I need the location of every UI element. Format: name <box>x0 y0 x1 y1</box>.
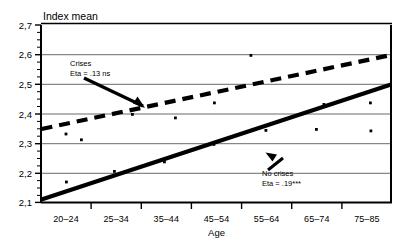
x-tick-label-55-64: 55–64 <box>254 214 280 224</box>
data-point-nocrises-5 <box>265 129 268 132</box>
data-point-nocrises-1 <box>65 181 68 184</box>
data-point-crises-1 <box>65 133 68 136</box>
y-tick-label-2-6: 2,6 <box>19 49 32 60</box>
data-point-crises-8 <box>369 102 372 105</box>
y-tick-label-2-5: 2,5 <box>19 79 32 90</box>
data-point-crises-2 <box>80 138 83 141</box>
x-axis-title: Age <box>208 227 225 238</box>
x-tick-label-75-85: 75–85 <box>354 214 380 224</box>
data-point-crises-4 <box>174 117 177 120</box>
y-axis-title: Index mean <box>43 10 98 22</box>
y-tick-label-2-3: 2,3 <box>19 138 32 149</box>
chart-figure: Index mean <box>0 0 413 250</box>
x-tick-label-35-44: 35–44 <box>154 214 180 224</box>
x-tick-label-25-34: 25–34 <box>103 214 129 224</box>
annotation-crises-eta: Eta = .13 ns <box>70 69 110 78</box>
annotation-crises-title: Crises <box>70 59 92 68</box>
y-tick-label-2-4: 2,4 <box>19 109 32 120</box>
x-tick-label-20-24: 20–24 <box>53 214 79 224</box>
x-tick-label-65-74: 65–74 <box>304 214 330 224</box>
data-point-nocrises-7 <box>370 130 373 133</box>
x-tick-label-45-54: 45–54 <box>204 214 230 224</box>
data-point-nocrises-6 <box>315 128 318 131</box>
data-point-crises-3 <box>131 113 134 116</box>
annotation-nocrises-title: No crises <box>262 169 294 178</box>
data-point-crises-5 <box>213 102 216 105</box>
y-tick-label-2-2: 2,2 <box>19 168 32 179</box>
y-tick-label-2-1: 2,1 <box>19 197 32 208</box>
annotation-nocrises-eta: Eta = .19*** <box>262 179 301 188</box>
data-point-nocrises-2 <box>113 170 116 173</box>
chart-svg: Index mean <box>0 0 413 250</box>
data-point-crises-6 <box>250 54 253 57</box>
y-tick-label-2-7: 2,7 <box>19 20 32 31</box>
